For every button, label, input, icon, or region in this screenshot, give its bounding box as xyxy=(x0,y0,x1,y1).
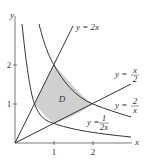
x-tick-label-2: 2 xyxy=(91,147,96,157)
y-tick-label-2: 2 xyxy=(7,60,12,70)
label-y-2x-inv-den: x xyxy=(132,105,137,115)
label-y-2x: y = 2x xyxy=(75,22,99,32)
label-y-x2-prefix: y = xyxy=(114,69,127,79)
label-y-2x-inv-prefix: y = xyxy=(114,100,127,110)
label-y-1-2x-prefix: y = xyxy=(86,117,99,127)
region-diagram: y x 1 2 1 2 y = 2x y = x 2 y = 2 x y = 1… xyxy=(0,0,144,166)
x-tick-label-1: 1 xyxy=(52,147,57,157)
x-axis-label: x xyxy=(134,137,139,147)
label-y-1-2x-den: 2x xyxy=(100,122,109,132)
label-y-x2-den: 2 xyxy=(133,74,138,84)
region-label: D xyxy=(58,94,66,104)
y-tick-label-1: 1 xyxy=(7,99,12,109)
curve-y-1-over-2x xyxy=(22,24,131,137)
y-axis-label: y xyxy=(9,10,14,20)
